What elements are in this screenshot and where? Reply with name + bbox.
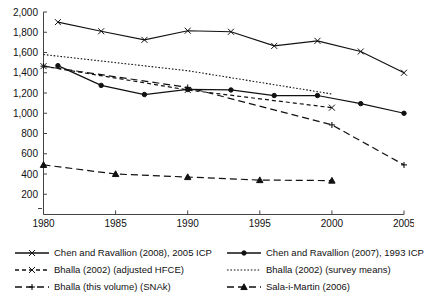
x-axis-tick-marks <box>44 211 405 215</box>
x-tick-label: 1985 <box>104 218 127 229</box>
x-tick-label: 2005 <box>393 218 414 229</box>
data-series <box>41 63 408 168</box>
y-tick-label: 1,000 <box>13 108 38 119</box>
legend-swatch <box>14 247 50 259</box>
legend-row: Bhalla (this volume) (SNAk)Sala-i-Martin… <box>14 278 408 295</box>
legend-item-label: Sala-i-Martin (2006) <box>266 281 350 293</box>
data-series <box>55 19 407 76</box>
data-series-group <box>40 19 407 183</box>
legend-item-label: Bhalla (2002) (adjusted HFCE) <box>54 264 184 276</box>
y-tick-label: 1,400 <box>13 67 38 78</box>
x-axis-tick-labels: 198019851990199520002005 <box>32 218 414 229</box>
data-point-marker <box>29 284 35 290</box>
legend-item[interactable]: Chen and Ravallion (2008), 2005 ICP <box>14 244 226 261</box>
data-point-marker <box>329 122 335 128</box>
chart-plot-area: 2004006008001,0001,2001,4001,6001,8002,0… <box>0 0 414 240</box>
y-tick-label: 1,200 <box>13 88 38 99</box>
legend-row: Chen and Ravallion (2008), 2005 ICPChen … <box>14 244 408 261</box>
y-tick-label: 1,600 <box>13 47 38 58</box>
data-point-marker <box>402 111 406 115</box>
data-point-marker <box>40 162 46 168</box>
legend-swatch <box>226 247 262 259</box>
legend-item-label: Chen and Ravallion (2008), 2005 ICP <box>54 247 212 259</box>
y-axis-tick-labels: 2004006008001,0001,2001,4001,6001,8002,0… <box>13 7 38 200</box>
legend-item[interactable]: Bhalla (this volume) (SNAk) <box>14 278 226 295</box>
data-series <box>40 162 335 183</box>
x-tick-label: 1990 <box>177 218 200 229</box>
legend-row: Bhalla (2002) (adjusted HFCE)Bhalla (200… <box>14 261 408 278</box>
y-tick-label: 800 <box>21 128 38 139</box>
legend-item-label: Chen and Ravallion (2007), 1993 ICP <box>266 247 424 259</box>
y-tick-label: 400 <box>21 169 38 180</box>
chart-legend: Chen and Ravallion (2008), 2005 ICPChen … <box>0 240 414 300</box>
data-point-marker <box>142 92 146 96</box>
legend-swatch <box>226 281 262 293</box>
data-point-marker <box>401 162 407 168</box>
data-point-marker <box>401 70 407 76</box>
x-tick-label: 2000 <box>321 218 344 229</box>
data-point-marker <box>99 83 103 87</box>
legend-item[interactable]: Bhalla (2002) (survey means) <box>226 261 414 278</box>
legend-item-label: Bhalla (2002) (survey means) <box>266 264 391 276</box>
y-axis-tick-marks <box>38 12 47 209</box>
y-tick-label: 600 <box>21 148 38 159</box>
data-point-marker <box>272 93 276 97</box>
legend-swatch <box>14 281 50 293</box>
x-tick-label: 1995 <box>249 218 272 229</box>
series-line <box>44 66 405 165</box>
legend-swatch <box>226 264 262 276</box>
y-tick-label: 2,000 <box>13 7 38 18</box>
y-tick-label: 1,800 <box>13 27 38 38</box>
data-point-marker <box>56 63 60 67</box>
data-point-marker <box>229 88 233 92</box>
data-point-marker <box>242 250 246 254</box>
series-line <box>58 22 404 73</box>
legend-swatch <box>14 264 50 276</box>
x-tick-label: 1980 <box>32 218 55 229</box>
data-point-marker <box>315 93 319 97</box>
legend-item[interactable]: Bhalla (2002) (adjusted HFCE) <box>14 261 226 278</box>
legend-item[interactable]: Chen and Ravallion (2007), 1993 ICP <box>226 244 414 261</box>
data-point-marker <box>359 101 363 105</box>
data-series <box>56 63 406 115</box>
legend-item-label: Bhalla (this volume) (SNAk) <box>54 281 171 293</box>
y-tick-label: 200 <box>21 189 38 200</box>
legend-item[interactable]: Sala-i-Martin (2006) <box>226 278 414 295</box>
